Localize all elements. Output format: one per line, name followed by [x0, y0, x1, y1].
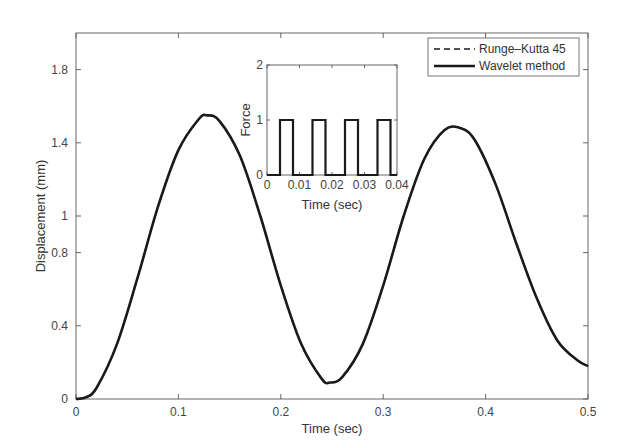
y-axis-label: Displacement (mm) — [33, 160, 48, 273]
y-tick-label: 1 — [61, 209, 68, 223]
y-tick-label: 0 — [61, 392, 68, 406]
y-tick-label: 2 — [256, 58, 263, 72]
x-tick-label: 0.3 — [375, 405, 392, 419]
x-tick-label: 0.04 — [385, 178, 409, 192]
inset-x-axis-label: Time (sec) — [302, 197, 363, 212]
legend-item-wavelet: Wavelet method — [479, 59, 565, 73]
x-tick-label: 0.5 — [580, 405, 597, 419]
x-tick-label: 0.03 — [353, 178, 377, 192]
x-tick-label: 0 — [264, 178, 271, 192]
legend-item-runge-kutta: Runge–Kutta 45 — [479, 42, 566, 56]
x-tick-label: 0.2 — [272, 405, 289, 419]
y-tick-label: 0.4 — [51, 319, 68, 333]
x-tick-label: 0.01 — [288, 178, 312, 192]
x-axis-label: Time (sec) — [302, 421, 363, 436]
inset-y-axis-label: Force — [238, 103, 253, 136]
y-tick-label: 1.4 — [51, 136, 68, 150]
x-tick-label: 0.02 — [320, 178, 344, 192]
y-tick-label: 1 — [256, 113, 263, 127]
x-tick-label: 0.4 — [477, 405, 494, 419]
y-tick-label: 0 — [256, 168, 263, 182]
x-tick-label: 0.1 — [170, 405, 187, 419]
chart-canvas: 00.10.20.30.40.500.40.811.41.8 Time (sec… — [0, 0, 626, 447]
y-tick-label: 0.8 — [51, 246, 68, 260]
x-tick-label: 0 — [73, 405, 80, 419]
legend: Runge–Kutta 45 Wavelet method — [428, 38, 579, 76]
y-tick-label: 1.8 — [51, 63, 68, 77]
